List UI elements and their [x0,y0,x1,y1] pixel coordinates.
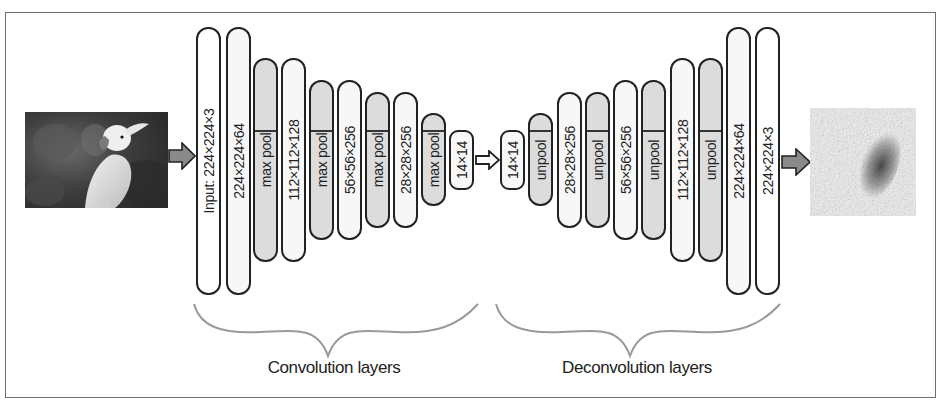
decoder-layer-feature-map: 224×224×64 [726,27,751,295]
decoder-layer-unpool: unpool [641,80,666,240]
encoder-layer-feature-map: 112×112×128 [281,58,306,262]
pool-divider [643,130,664,132]
layer-label: Input: 224×224×3 [201,109,217,214]
layer-label: 224×224×64 [231,123,247,199]
encoder-layer-max-pool: max pool [365,92,390,228]
layer-label: max pool [258,133,274,187]
layer-label: 56×56×256 [618,126,634,194]
layer-label: max pool [314,133,330,187]
layer-label: 56×56×256 [342,126,358,194]
layer-label: 224×224×64 [731,123,747,199]
layer-label: unpool [533,139,549,179]
layer-label: 14×14 [505,141,521,179]
encoder-layer-feature-map: 224×224×64 [226,27,251,295]
encoder-layer-max-pool: max pool [421,113,446,206]
layer-label: 112×112×128 [675,119,691,200]
convolution-caption: Convolution layers [268,358,401,378]
decoder-layer-unpool: unpool [585,92,610,228]
layer-label: unpool [590,140,606,180]
deconvolution-caption: Deconvolution layers [562,358,712,378]
encoder-layer-feature-map: 28×28×256 [393,92,418,228]
output-image [810,108,916,216]
encoder-layer-feature-map: 56×56×256 [337,80,362,240]
decoder-layer-feature-map: 14×14 [500,130,525,190]
encoder-layer-max-pool: max pool [309,80,334,240]
pool-divider [423,130,444,132]
layer-label: unpool [646,140,662,180]
layer-label: 112×112×128 [286,119,302,200]
input-image [25,112,168,208]
layer-label: max pool [426,132,442,186]
pool-divider [587,130,608,132]
pool-divider [311,130,332,132]
input-arrow-icon [168,142,196,170]
encoder-layer-max-pool: max pool [253,58,278,262]
bottleneck-arrow-icon [475,150,501,170]
layer-label: 224×224×3 [760,127,776,195]
layer-label: 14×14 [454,141,470,179]
decoder-layer-feature-map: 56×56×256 [613,80,638,240]
layer-label: unpool [703,140,719,180]
decoder-layer-feature-map: 224×224×3 [755,27,780,295]
output-arrow-icon [781,148,811,176]
decoder-layer-unpool: unpool [528,113,553,206]
encoder-layer-feature-map: Input: 224×224×3 [196,27,221,295]
layer-label: 28×28×256 [398,126,414,194]
deconvolution-brace [492,300,784,362]
encoder-layer-feature-map: 14×14 [449,130,474,190]
pool-divider [700,130,721,132]
layer-label: max pool [370,133,386,187]
layer-label: 28×28×256 [562,126,578,194]
pool-divider [367,130,388,132]
convolution-brace [190,300,482,362]
pool-divider [530,130,551,132]
decoder-layer-unpool: unpool [698,58,723,262]
decoder-layer-feature-map: 28×28×256 [557,92,582,228]
decoder-layer-feature-map: 112×112×128 [670,58,695,262]
pool-divider [255,130,276,132]
